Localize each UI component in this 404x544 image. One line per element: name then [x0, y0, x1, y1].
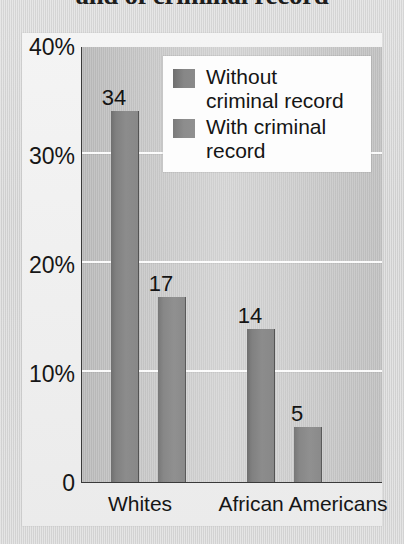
bar-value-label-whites-without: 34 — [90, 87, 138, 109]
y-tick-40: 40% — [9, 36, 75, 59]
bar-value-label-whites-with: 17 — [137, 273, 185, 295]
legend-entry-with-record: With criminal record — [173, 115, 363, 162]
figure-title-text: and of criminal record — [75, 0, 328, 11]
y-tick-0: 0 — [9, 472, 75, 495]
legend-label-with-record: With criminal record — [206, 115, 326, 162]
x-label-african-americans: African Americans — [218, 492, 388, 516]
bar-african-americans-with-record — [294, 427, 322, 482]
y-axis-ticks: 40% 30% 20% 10% 0 — [5, 47, 75, 483]
legend-label-without-record-line1: Without — [206, 65, 344, 89]
legend-swatch-without-record — [173, 69, 195, 88]
figure-caption-cropped — [0, 527, 404, 544]
legend-swatch-with-record — [173, 119, 195, 138]
legend-entry-without-record: Without criminal record — [173, 65, 363, 112]
y-tick-10: 10% — [9, 363, 75, 386]
chart-legend: Without criminal record With criminal re… — [163, 56, 371, 172]
figure-title-cropped: and of criminal record — [0, 0, 404, 16]
bar-whites-with-record — [158, 297, 186, 482]
legend-label-without-record: Without criminal record — [206, 65, 344, 112]
y-tick-20: 20% — [9, 254, 75, 277]
y-tick-30: 30% — [9, 145, 75, 168]
bar-value-label-aa-without: 14 — [226, 305, 274, 327]
bar-whites-without-record — [111, 111, 139, 482]
x-label-whites: Whites — [90, 492, 190, 516]
legend-label-without-record-line2: criminal record — [206, 89, 344, 113]
legend-label-with-record-line2: record — [206, 139, 326, 163]
figure-page: and of criminal record 40% 30% 20% 10% 0… — [0, 0, 404, 544]
bar-african-americans-without-record — [247, 329, 275, 482]
bar-value-label-aa-with: 5 — [273, 403, 321, 425]
legend-label-with-record-line1: With criminal — [206, 115, 326, 139]
